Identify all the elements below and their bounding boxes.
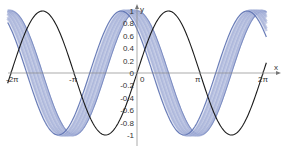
y-tick-label: -0.8 <box>120 119 134 128</box>
origin-label: 0 <box>140 75 145 84</box>
y-tick-label: 0.4 <box>123 44 135 53</box>
y-tick-label: -1 <box>127 131 135 140</box>
x-tick-label: -π <box>69 75 78 84</box>
y-tick-label: 1 <box>130 7 135 16</box>
x-tick-label: π <box>195 75 201 84</box>
y-tick-label: -0.2 <box>120 81 134 90</box>
x-axis-label: x <box>274 63 278 72</box>
x-tick-label: 2π <box>258 75 268 84</box>
y-tick-label: -0.4 <box>120 94 134 103</box>
x-tick-label: -2π <box>6 75 19 84</box>
y-tick-label: -0.6 <box>120 106 134 115</box>
y-tick-label: 0.2 <box>123 57 135 66</box>
y-tick-label: 0.8 <box>123 19 135 28</box>
y-tick-labels: -1-0.8-0.6-0.4-0.200.20.40.60.81 <box>120 7 134 140</box>
y-axis-label: y <box>140 5 144 14</box>
function-plot: -2π-ππ2π -1-0.8-0.6-0.4-0.200.20.40.60.8… <box>0 0 285 151</box>
y-tick-label: 0 <box>130 69 135 78</box>
y-tick-label: 0.6 <box>123 32 135 41</box>
y-axis-arrow-icon <box>135 4 139 9</box>
